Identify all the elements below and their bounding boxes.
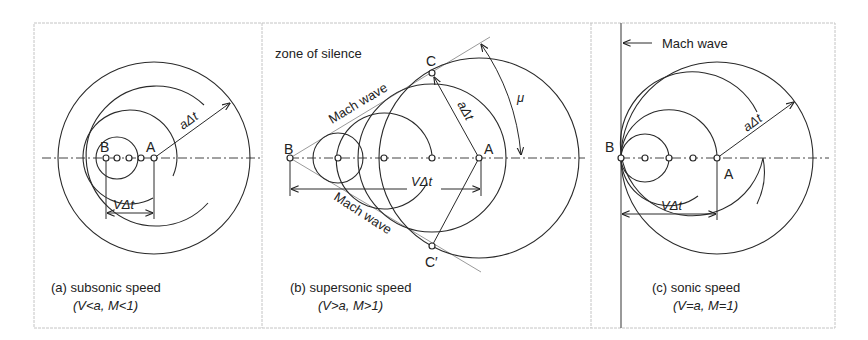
mach-wave-diagram: aΔt VΔt B A (a) subsonic speed (V<a, M<1… xyxy=(0,0,868,340)
zone-of-silence-label: zone of silence xyxy=(275,46,362,61)
point-a-label: A xyxy=(724,166,734,182)
line-a-to-c-prime xyxy=(433,158,479,244)
position-dot xyxy=(114,155,120,161)
caption-title: (c) sonic speed xyxy=(652,280,740,295)
mach-angle-label: μ xyxy=(516,90,524,105)
point-b xyxy=(103,155,109,161)
caption-condition: (V>a, M>1) xyxy=(318,298,383,313)
point-a-label: A xyxy=(484,141,494,157)
position-dot xyxy=(381,155,387,161)
caption-condition: (V<a, M<1) xyxy=(73,298,138,313)
point-c-prime xyxy=(429,243,435,249)
position-dot xyxy=(138,155,144,161)
position-dot xyxy=(666,155,672,161)
caption-condition: (V=a, M=1) xyxy=(673,298,738,313)
point-a xyxy=(714,155,720,161)
panel-subsonic: aΔt VΔt B A (a) subsonic speed (V<a, M<1… xyxy=(42,62,260,313)
point-c-prime-label: C′ xyxy=(425,254,438,270)
position-dot xyxy=(642,155,648,161)
displacement-label: VΔt xyxy=(411,174,433,189)
mach-wave-label-bottom: Mach wave xyxy=(331,189,394,237)
position-dot xyxy=(335,155,341,161)
point-c-label: C xyxy=(426,53,436,69)
position-dot xyxy=(429,155,435,161)
point-c xyxy=(429,70,435,76)
point-a xyxy=(476,155,482,161)
displacement-label: VΔt xyxy=(113,197,135,212)
wave-circle-2 xyxy=(620,72,764,216)
panel-sonic: aΔt VΔt Mach wave B A (c) sonic speed (V… xyxy=(605,23,829,328)
position-dot xyxy=(690,155,696,161)
radius-label: aΔt xyxy=(740,110,766,134)
panel-supersonic: aΔt μ VΔt Mach wave Mach wave zone of si… xyxy=(275,37,585,313)
position-dot xyxy=(126,155,132,161)
point-b-label: B xyxy=(100,139,109,155)
displacement-label: VΔt xyxy=(661,198,683,213)
point-a xyxy=(151,155,157,161)
mach-wave-label: Mach wave xyxy=(662,36,728,51)
point-a-label: A xyxy=(146,139,156,155)
point-b xyxy=(618,155,624,161)
caption-title: (a) subsonic speed xyxy=(51,280,161,295)
caption-title: (b) supersonic speed xyxy=(290,280,411,295)
radius-label: aΔt xyxy=(176,108,202,132)
point-b-label: B xyxy=(605,139,614,155)
point-b-label: B xyxy=(284,141,293,157)
